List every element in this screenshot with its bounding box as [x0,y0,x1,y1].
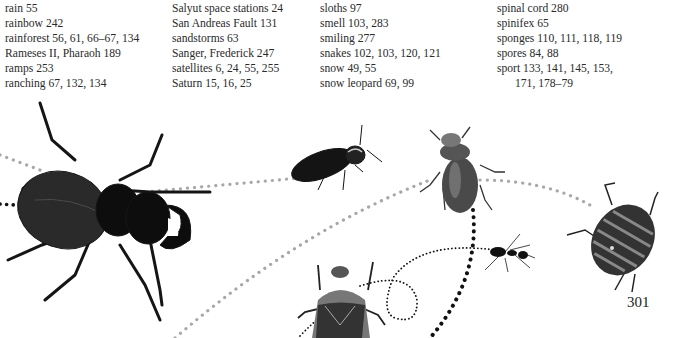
ant-icon [485,234,535,272]
insect-illustration [0,0,674,338]
stag-beetle-icon [8,103,210,320]
shield-bug-icon [567,183,667,292]
chafer-beetle-icon [298,262,385,338]
page-number: 301 [627,294,650,311]
small-stag-beetle-icon [420,127,505,213]
click-beetle-icon [287,125,382,190]
